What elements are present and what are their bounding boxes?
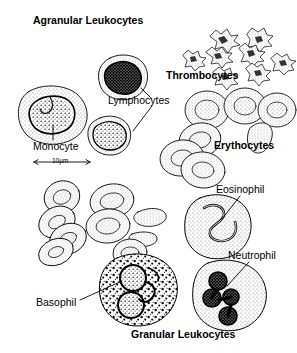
leader-lymphocyte-lower — [133, 106, 152, 131]
neutrophil-cell — [193, 260, 267, 331]
heading-thrombocytes: Thrombocytes — [166, 70, 238, 81]
blood-cells-figure: Agranular Leukocytes Thrombocytes Erytho… — [0, 0, 297, 353]
heading-erythocytes: Erythocytes — [214, 140, 274, 151]
scale-bar-label: 10µm — [52, 158, 68, 165]
basophil-cell — [99, 254, 177, 326]
label-eosinophil: Eosinophil — [216, 184, 264, 195]
heading-granular-leukocytes: Granular Leukocytes — [131, 329, 235, 340]
heading-agranular-leukocytes: Agranular Leukocytes — [33, 15, 143, 26]
label-basophil: Basophil — [36, 297, 76, 308]
lymphocyte-lower — [88, 116, 131, 155]
label-neutrophil: Neutrophil — [228, 250, 276, 261]
label-monocyte: Monocyte — [33, 141, 79, 152]
label-lymphocytes: Lymphocytes — [108, 95, 169, 106]
